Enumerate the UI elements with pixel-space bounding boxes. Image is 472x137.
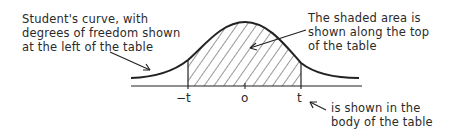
right-bottom-line-2: body of the table <box>331 115 433 129</box>
right-top-line-2: shown along the top <box>308 25 429 39</box>
left-annotation-line-2: degrees of freedom shown <box>22 26 180 40</box>
right-top-line-1: The shaded area is <box>308 11 429 25</box>
right-top-line-3: of the table <box>308 39 429 53</box>
shaded-area <box>188 15 301 86</box>
left-annotation-line-3: at the left of the table <box>22 40 180 54</box>
t-label: t <box>297 91 302 105</box>
neg-t-label: −t <box>176 91 191 105</box>
left-annotation: Student's curve, with degrees of freedom… <box>22 12 180 54</box>
left-annotation-line-1: Student's curve, with <box>22 12 180 26</box>
left-annotation-arrow <box>110 52 150 70</box>
right-bottom-line-1: is shown in the <box>331 101 433 115</box>
right-top-annotation: The shaded area is shown along the top o… <box>308 11 429 53</box>
zero-label: o <box>241 91 248 105</box>
right-bottom-annotation: is shown in the body of the table <box>331 101 433 129</box>
